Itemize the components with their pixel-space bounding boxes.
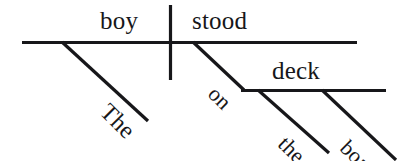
word-prep-object-deck: deck bbox=[272, 58, 320, 83]
word-verb-stood: stood bbox=[192, 8, 247, 33]
word-subject-boy: boy bbox=[100, 8, 138, 33]
sentence-diagram: boy stood deck The on the boat's bbox=[0, 0, 401, 161]
